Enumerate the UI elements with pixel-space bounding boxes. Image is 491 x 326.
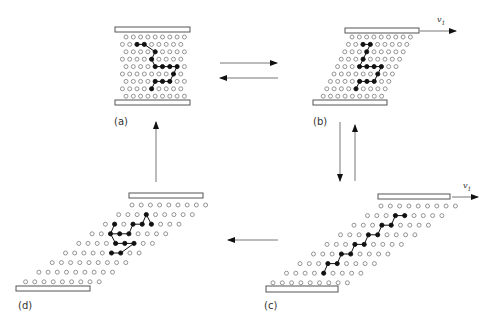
- open-particle: [124, 50, 128, 54]
- open-particle: [150, 241, 154, 245]
- panel-label-a: (a): [114, 116, 128, 127]
- open-particle: [124, 35, 128, 39]
- open-particle: [408, 35, 412, 39]
- open-particle: [285, 271, 289, 275]
- open-particle: [336, 94, 340, 98]
- open-particle: [401, 50, 405, 54]
- filled-particle: [349, 252, 353, 256]
- open-particle: [179, 57, 183, 61]
- open-particle: [387, 79, 391, 83]
- filled-particle: [114, 241, 118, 245]
- open-particle: [294, 271, 298, 275]
- open-particle: [388, 204, 392, 208]
- open-particle: [357, 233, 361, 237]
- open-particle: [164, 87, 168, 91]
- open-particle: [142, 57, 146, 61]
- filled-particle: [113, 222, 117, 226]
- open-particle: [82, 251, 86, 255]
- open-particle: [73, 251, 77, 255]
- open-particle: [399, 223, 403, 227]
- filled-particle: [389, 223, 393, 227]
- filled-particle: [123, 241, 127, 245]
- open-particle: [384, 214, 388, 218]
- open-particle: [157, 42, 161, 46]
- open-particle: [182, 50, 186, 54]
- open-particle: [142, 72, 146, 76]
- bottom-plate: [313, 100, 387, 105]
- open-particle: [271, 281, 275, 285]
- open-particle: [398, 42, 402, 46]
- open-particle: [139, 35, 143, 39]
- filled-particle: [361, 57, 365, 61]
- open-particle: [318, 281, 322, 285]
- open-particle: [344, 242, 348, 246]
- filled-particle: [127, 232, 131, 236]
- open-particle: [179, 87, 183, 91]
- open-particle: [339, 233, 343, 237]
- open-particle: [161, 35, 165, 39]
- bottom-plate: [16, 286, 90, 291]
- open-particle: [104, 241, 108, 245]
- filled-particle: [379, 65, 383, 69]
- open-particle: [161, 94, 165, 98]
- open-particle: [339, 87, 343, 91]
- open-particle: [325, 242, 329, 246]
- open-particle: [172, 87, 176, 91]
- open-particle: [444, 204, 448, 208]
- open-particle: [345, 262, 349, 266]
- open-particle: [336, 281, 340, 285]
- filled-particle: [362, 242, 366, 246]
- filled-particle: [140, 222, 144, 226]
- open-particle: [122, 222, 126, 226]
- open-particle: [398, 204, 402, 208]
- open-particle: [380, 94, 384, 98]
- open-particle: [194, 203, 198, 207]
- open-particle: [361, 87, 365, 91]
- open-particle: [167, 203, 171, 207]
- open-particle: [131, 65, 135, 69]
- open-particle: [164, 72, 168, 76]
- open-particle: [390, 72, 394, 76]
- open-particle: [135, 87, 139, 91]
- panel-c: [266, 194, 478, 292]
- open-particle: [366, 214, 370, 218]
- open-particle: [354, 42, 358, 46]
- open-particle: [78, 261, 82, 265]
- open-particle: [90, 232, 94, 236]
- open-particle: [101, 270, 105, 274]
- open-particle: [376, 57, 380, 61]
- open-particle: [168, 35, 172, 39]
- open-particle: [168, 222, 172, 226]
- filled-particle: [132, 241, 136, 245]
- open-particle: [317, 262, 321, 266]
- filled-particle: [339, 252, 343, 256]
- open-particle: [387, 50, 391, 54]
- open-particle: [100, 251, 104, 255]
- filled-particle: [335, 262, 339, 266]
- open-particle: [177, 222, 181, 226]
- filled-particle: [160, 65, 164, 69]
- open-particle: [453, 204, 457, 208]
- open-particle: [321, 252, 325, 256]
- open-particle: [379, 204, 383, 208]
- open-particle: [136, 232, 140, 236]
- filled-particle: [153, 50, 157, 54]
- open-particle: [87, 261, 91, 265]
- open-particle: [130, 203, 134, 207]
- open-particle: [175, 94, 179, 98]
- open-particle: [99, 232, 103, 236]
- open-particle: [330, 252, 334, 256]
- open-particle: [350, 50, 354, 54]
- open-particle: [399, 242, 403, 246]
- open-particle: [157, 72, 161, 76]
- open-particle: [431, 214, 435, 218]
- open-particle: [405, 42, 409, 46]
- open-particle: [280, 281, 284, 285]
- filled-particle: [357, 65, 361, 69]
- open-particle: [168, 94, 172, 98]
- open-particle: [343, 94, 347, 98]
- open-particle: [158, 203, 162, 207]
- open-particle: [298, 262, 302, 266]
- open-particle: [185, 203, 189, 207]
- open-particle: [358, 252, 362, 256]
